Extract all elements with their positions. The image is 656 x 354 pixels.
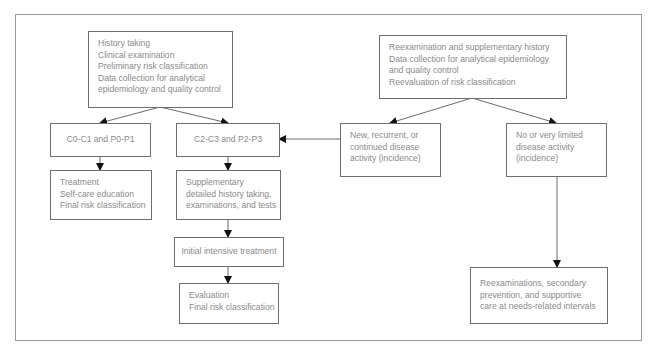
node-text: examinations, and tests xyxy=(186,200,280,212)
node-text: Clinical examination xyxy=(98,50,232,62)
node-evaluation: Evaluation Final risk classification xyxy=(179,283,279,324)
node-text: disease activity xyxy=(516,142,606,154)
node-high-risk: C2-C3 and P2-P3 xyxy=(176,123,280,157)
node-text: C0-C1 and P0-P1 xyxy=(67,134,135,146)
node-text: prevention, and supportive xyxy=(480,290,607,302)
node-text: activity (incidence) xyxy=(350,153,440,165)
node-text: History taking xyxy=(98,38,232,50)
node-text: Final risk classification xyxy=(189,302,278,314)
node-text: Reexamination and supplementary history xyxy=(389,42,566,54)
node-active-disease: New, recurrent, or continued disease act… xyxy=(340,123,441,177)
node-text: Reexaminations, secondary xyxy=(480,278,607,290)
node-intensive-treatment: Initial intensive treatment xyxy=(174,237,284,267)
node-text: Treatment xyxy=(60,177,151,189)
node-maintenance: Reexaminations, secondary prevention, an… xyxy=(470,267,608,324)
node-text: C2-C3 and P2-P3 xyxy=(194,134,262,146)
node-text: detailed history taking, xyxy=(186,189,280,201)
node-text: Supplementary xyxy=(186,177,280,189)
node-text: continued disease xyxy=(350,142,440,154)
node-text: Initial intensive treatment xyxy=(181,246,276,258)
node-text: Data collection for analytical epidemiol… xyxy=(389,54,566,66)
node-supplementary: Supplementary detailed history taking, e… xyxy=(176,170,281,220)
node-low-risk-care: Treatment Self-care education Final risk… xyxy=(50,170,152,220)
node-text: New, recurrent, or xyxy=(350,130,440,142)
node-low-risk: C0-C1 and P0-P1 xyxy=(50,123,151,157)
node-limited-disease: No or very limited disease activity (inc… xyxy=(506,123,607,177)
node-reexamination: Reexamination and supplementary history … xyxy=(379,35,567,99)
node-text: Self-care education xyxy=(60,189,151,201)
node-text: Reevaluation of risk classification xyxy=(389,77,566,89)
node-text: epidemiology and quality control xyxy=(98,84,232,96)
node-text: (incidence) xyxy=(516,153,606,165)
node-text: No or very limited xyxy=(516,130,606,142)
node-initial-exam: History taking Clinical examination Prel… xyxy=(88,31,233,108)
node-text: Data collection for analytical xyxy=(98,73,232,85)
node-text: Final risk classification xyxy=(60,200,151,212)
node-text: and quality control xyxy=(389,65,566,77)
node-text: Evaluation xyxy=(189,290,278,302)
node-text: Preliminary risk classification xyxy=(98,61,232,73)
node-text: care at needs-related intervals xyxy=(480,301,607,313)
